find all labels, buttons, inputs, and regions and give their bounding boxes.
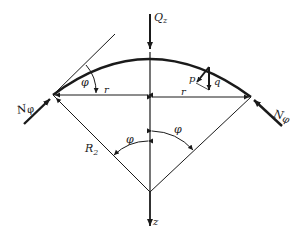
meridian-radius-right [150, 97, 251, 192]
label-phi-bottom-right: φ [174, 123, 182, 136]
meridian-arrowhead [56, 98, 70, 112]
label-p: p [189, 73, 196, 84]
angle-arc-bottom-right [152, 131, 193, 150]
label-r-left: r [104, 84, 110, 95]
label-r2: R2 [84, 142, 98, 157]
shell-diagram: Qz Nφ Nφ r r R2 φ φ φ p q z [0, 0, 301, 249]
label-z: z [152, 216, 159, 227]
label-phi-bottom-left: φ [126, 133, 134, 146]
label-n-phi-right: Nφ [271, 107, 292, 125]
label-phi-top-left: φ [81, 76, 89, 89]
label-qz: Qz [154, 11, 168, 25]
label-r-right: r [181, 86, 187, 97]
label-q: q [214, 76, 220, 87]
p-q-construction [196, 83, 209, 90]
